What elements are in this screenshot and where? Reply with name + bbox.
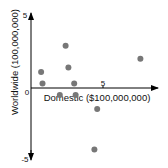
x-tick-label-5: 5	[101, 79, 106, 88]
data-point	[40, 81, 46, 87]
data-point	[137, 56, 143, 62]
y-tick-label-bottom: -5	[21, 155, 29, 164]
data-point	[91, 147, 97, 153]
data-point	[63, 43, 69, 49]
y-tick-label-top: 5	[23, 11, 28, 20]
data-point	[73, 92, 79, 98]
data-point	[38, 69, 44, 75]
data-point	[57, 92, 63, 98]
data-point	[71, 81, 77, 87]
data-point	[94, 106, 100, 112]
data-point	[65, 65, 71, 71]
y-axis-label: Worldwide (100,000,000)	[9, 9, 20, 115]
y-tick-label-zero: 0	[25, 88, 30, 97]
axes	[31, 13, 158, 160]
scatter-chart: 5 0 -5 5 Domestic ($100,000,000) Worldwi…	[0, 0, 168, 168]
